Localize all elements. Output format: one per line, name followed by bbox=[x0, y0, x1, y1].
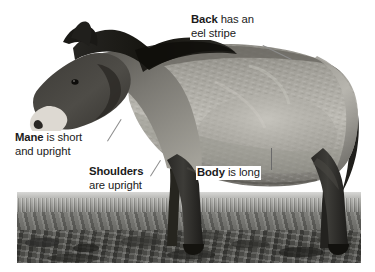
annotation-mane: Mane is short and upright bbox=[14, 131, 83, 158]
horse-eye-highlight bbox=[73, 80, 75, 82]
horse-eye bbox=[71, 79, 78, 85]
figure-page: Back has an eel stripe Mane is short and… bbox=[0, 0, 375, 272]
annotation-back: Back has an eel stripe bbox=[190, 13, 255, 40]
annotation-shoulders-term: Shoulders bbox=[89, 165, 143, 177]
annotation-back-line2: eel stripe bbox=[190, 27, 237, 41]
annotation-back-line1: Back has an bbox=[190, 13, 255, 27]
annotation-mane-line2: and upright bbox=[14, 145, 71, 159]
annotation-back-term: Back bbox=[191, 13, 218, 25]
annotation-mane-text1: is short bbox=[43, 131, 82, 143]
annotation-shoulders-line1: Shoulders bbox=[88, 165, 144, 179]
annotation-shoulders: Shoulders are upright bbox=[88, 165, 144, 192]
annotation-body-line1: Body is long bbox=[196, 166, 261, 180]
annotation-back-text1: has an bbox=[218, 13, 254, 25]
annotation-shoulders-line2: are upright bbox=[88, 179, 143, 193]
leader-line-body bbox=[271, 148, 272, 170]
annotation-body-text1: is long bbox=[225, 166, 260, 178]
annotation-mane-line1: Mane is short bbox=[14, 131, 83, 145]
annotation-mane-term: Mane bbox=[15, 131, 43, 143]
horse-near-hind-hoof bbox=[328, 244, 349, 255]
annotation-body: Body is long bbox=[196, 166, 261, 180]
annotation-body-term: Body bbox=[197, 166, 225, 178]
horse-near-fore-hoof bbox=[183, 244, 204, 255]
